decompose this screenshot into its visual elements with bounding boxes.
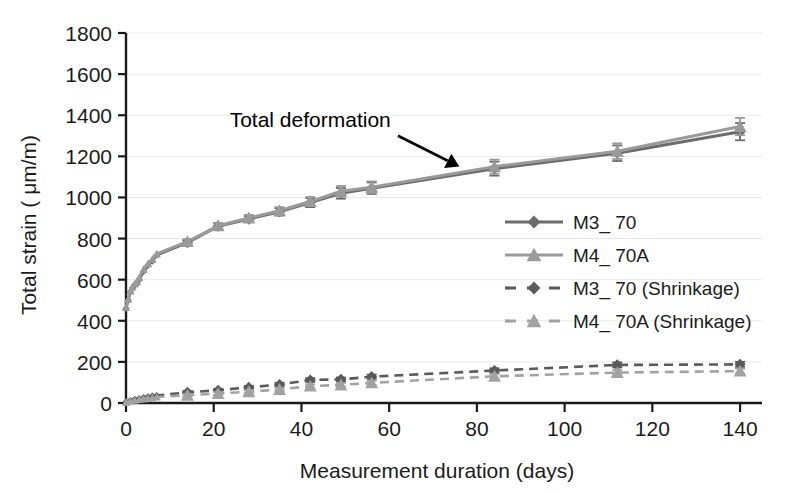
legend-label: M4_ 70A (Shrinkage) (573, 311, 752, 333)
y-tick-label-1000: 1000 (65, 186, 112, 209)
y-tick-label-1400: 1400 (65, 104, 112, 127)
x-tick-label-40: 40 (290, 417, 313, 440)
y-tick-label-1600: 1600 (65, 63, 112, 86)
x-tick-label-140: 140 (723, 417, 758, 440)
y-tick-label-1200: 1200 (65, 145, 112, 168)
y-tick-label-0: 0 (100, 392, 112, 415)
legend-label: M4_ 70A (573, 245, 649, 267)
y-tick-label-200: 200 (77, 351, 112, 374)
annotation-label: Total deformation (230, 108, 391, 131)
chart-figure: 020040060080010001200140016001800 020406… (0, 0, 788, 494)
legend-label: M3_ 70 (573, 212, 636, 234)
x-tick-label-120: 120 (635, 417, 670, 440)
x-axis-title: Measurement duration (days) (300, 459, 574, 482)
x-tick-label-0: 0 (120, 417, 132, 440)
legend-label: M3_ 70 (Shrinkage) (573, 278, 740, 300)
y-tick-label-800: 800 (77, 228, 112, 251)
y-tick-label-1800: 1800 (65, 22, 112, 45)
x-tick-label-80: 80 (465, 417, 488, 440)
x-tick-label-60: 60 (377, 417, 400, 440)
y-tick-label-600: 600 (77, 269, 112, 292)
y-axis-title: Total strain ( μm/m) (17, 135, 40, 315)
x-tick-label-20: 20 (202, 417, 225, 440)
y-tick-label-400: 400 (77, 310, 112, 333)
x-tick-label-100: 100 (547, 417, 582, 440)
total-strain-line-chart: 020040060080010001200140016001800 020406… (0, 0, 788, 494)
